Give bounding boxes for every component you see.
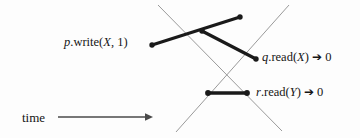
label-q-read-close: ) [305, 50, 309, 64]
r-read-start-dot [205, 90, 211, 96]
label-r-read-operation-name: .read( [261, 85, 290, 99]
diagram-svg [0, 0, 360, 138]
time-axis-arrow [58, 113, 153, 121]
label-q-read-operation-name: .read( [268, 50, 297, 64]
q-read-operation-segment [202, 31, 256, 59]
write-end-dot [237, 14, 242, 19]
label-r-read-variable: Y [290, 85, 297, 99]
label-r-read-close: ) [297, 85, 301, 99]
label-q-read-variable: X [297, 50, 305, 64]
label-write-operation: p.write(X, 1) [64, 36, 128, 49]
label-write-variable: X [103, 35, 111, 49]
label-q-read-arrow-icon: ➔ [312, 50, 322, 64]
label-write-args: , 1) [111, 35, 128, 49]
label-r-read-arrow-icon: ➔ [304, 85, 314, 99]
cut-lines-group [158, 5, 289, 132]
label-r-read-operation: r.read(Y) ➔ 0 [256, 86, 323, 99]
time-axis-label: time [22, 111, 45, 124]
label-q-read-operation: q.read(X) ➔ 0 [262, 51, 331, 64]
r-read-end-dot [244, 90, 250, 96]
label-r-read-result: 0 [317, 85, 323, 99]
q-read-start-dot [199, 28, 204, 33]
q-read-end-dot [253, 56, 258, 61]
label-q-read-result: 0 [325, 50, 331, 64]
ascending-cut-line [176, 5, 289, 132]
operations-group [149, 14, 258, 96]
write-operation-segment [152, 17, 240, 45]
label-write-operation-name: .write( [70, 35, 103, 49]
diagram-canvas: p.write(X, 1) q.read(X) ➔ 0 r.read(Y) ➔ … [0, 0, 360, 138]
write-start-dot [149, 42, 154, 47]
time-axis-arrowhead [145, 113, 153, 121]
